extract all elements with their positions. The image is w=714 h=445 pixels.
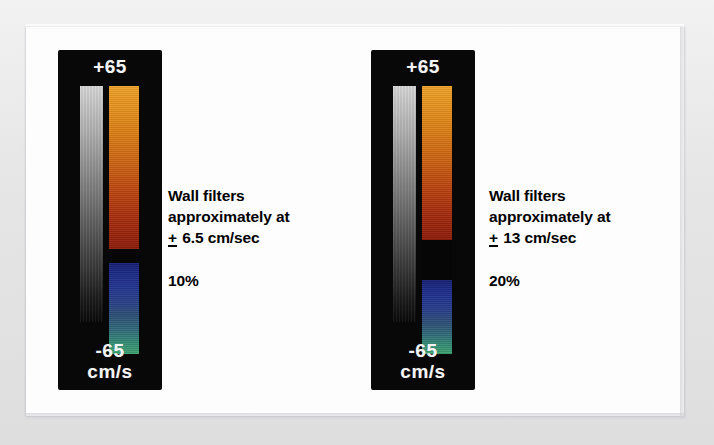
- caption-right-line2: approximately at: [489, 206, 611, 227]
- grayscale-amplitude-column-right: [393, 86, 416, 322]
- positive-velocity-gradient-left: [109, 86, 139, 249]
- caption-left-line1: Wall filters: [168, 185, 290, 206]
- velocity-min-label-right: -65: [371, 341, 475, 361]
- color-velocity-column-left: [109, 86, 139, 354]
- caption-right-line1: Wall filters: [489, 185, 611, 206]
- velocity-units-label-left: cm/s: [58, 362, 162, 382]
- color-velocity-column-right: [422, 86, 452, 354]
- plus-minus-symbol-left: +: [168, 230, 177, 247]
- positive-velocity-gradient-right: [422, 86, 452, 240]
- caption-left-line3: + 6.5 cm/sec: [168, 227, 290, 248]
- caption-right-line3: + 13 cm/sec: [489, 227, 611, 248]
- caption-left: Wall filters approximately at + 6.5 cm/s…: [168, 185, 290, 291]
- scale-panel-left: +65 -65 cm/s: [58, 50, 162, 390]
- velocity-max-label-right: +65: [371, 57, 475, 77]
- wall-filter-percent-left: 10%: [168, 270, 290, 291]
- velocity-max-label-left: +65: [58, 57, 162, 77]
- velocity-units-label-right: cm/s: [371, 362, 475, 382]
- wall-filter-rejection-band-left: [109, 249, 139, 263]
- grayscale-texture-left: [80, 86, 103, 322]
- caption-left-value: 6.5 cm/sec: [182, 229, 259, 246]
- doppler-scale-figure: +65 -65 cm/s Wall filters approximately …: [0, 0, 714, 445]
- wall-filter-percent-right: 20%: [489, 270, 611, 291]
- positive-scanline-texture-left: [109, 86, 139, 249]
- positive-scanline-texture-right: [422, 86, 452, 240]
- grayscale-texture-right: [393, 86, 416, 322]
- caption-right-value: 13 cm/sec: [503, 229, 576, 246]
- scale-panel-right: +65 -65 cm/s: [371, 50, 475, 390]
- wall-filter-rejection-band-right: [422, 240, 452, 280]
- plus-minus-symbol-right: +: [489, 230, 498, 247]
- grayscale-amplitude-column-left: [80, 86, 103, 322]
- caption-left-line2: approximately at: [168, 206, 290, 227]
- velocity-min-label-left: -65: [58, 341, 162, 361]
- caption-right: Wall filters approximately at + 13 cm/se…: [489, 185, 611, 291]
